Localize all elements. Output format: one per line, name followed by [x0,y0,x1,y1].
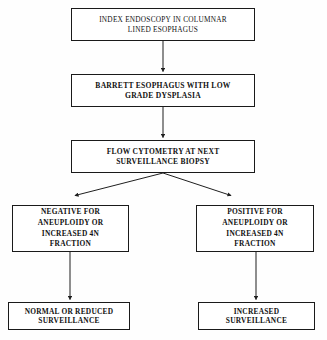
flowchart-canvas: INDEX ENDOSCOPY IN COLUMNAR LINED ESOPHA… [0,0,327,340]
edge-flow-cytometry-to-negative [75,173,163,196]
node-index-endoscopy: INDEX ENDOSCOPY IN COLUMNAR LINED ESOPHA… [71,8,255,41]
node-positive-result: POSITIVE FOR ANEUPLOIDY OR INCREASED 4N … [196,205,314,252]
node-negative-result: NEGATIVE FOR ANEUPLOIDY OR INCREASED 4N … [12,205,129,252]
node-flow-cytometry: FLOW CYTOMETRY AT NEXT SURVEILLANCE BIOP… [71,140,255,173]
node-flow-cytometry-label: FLOW CYTOMETRY AT NEXT SURVEILLANCE BIOP… [104,147,223,166]
node-increased-surveillance-label: INCREASED SURVEILLANCE [223,307,290,326]
node-negative-result-label: NEGATIVE FOR ANEUPLOIDY OR INCREASED 4N … [35,207,106,249]
node-index-endoscopy-label: INDEX ENDOSCOPY IN COLUMNAR LINED ESOPHA… [96,15,230,34]
node-positive-result-label: POSITIVE FOR ANEUPLOIDY OR INCREASED 4N … [219,207,290,249]
node-increased-surveillance: INCREASED SURVEILLANCE [198,302,315,330]
edge-flow-cytometry-to-positive [163,173,231,196]
node-normal-reduced-surveillance-label: NORMAL OR REDUCED SURVEILLANCE [22,307,117,326]
node-barrett-low-grade-dysplasia-label: BARRETT ESOPHAGUS WITH LOW GRADE DYSPLAS… [92,81,233,100]
node-normal-reduced-surveillance: NORMAL OR REDUCED SURVEILLANCE [8,302,130,330]
node-barrett-low-grade-dysplasia: BARRETT ESOPHAGUS WITH LOW GRADE DYSPLAS… [71,74,255,107]
